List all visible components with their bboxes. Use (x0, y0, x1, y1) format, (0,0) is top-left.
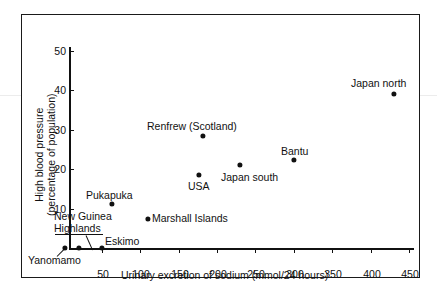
underline-new-guinea-highlands (55, 234, 103, 235)
x-tick-300 (294, 248, 295, 253)
data-point-renfrew-scotland[interactable] (200, 133, 205, 138)
x-tick-150 (179, 248, 180, 253)
data-label-renfrew-scotland: Renfrew (Scotland) (147, 121, 237, 133)
x-tick-label-50: 50 (88, 269, 118, 280)
data-label-eskimo: Eskimo (105, 236, 139, 248)
data-point-pukapuka[interactable] (109, 201, 114, 206)
data-point-eskimo[interactable] (99, 245, 104, 250)
x-tick-200 (217, 248, 218, 253)
data-point-usa[interactable] (196, 172, 201, 177)
y-tick-50 (69, 51, 74, 52)
data-label-pukapuka: Pukapuka (86, 190, 133, 202)
x-tick-250 (255, 248, 256, 253)
x-axis-title: Urinary excretion of sodium (mmol/24 hou… (121, 269, 328, 281)
data-label-bantu: Bantu (281, 146, 308, 158)
data-point-new-guinea-highlands[interactable] (76, 245, 81, 250)
data-label-marshall-islands: Marshall Islands (152, 213, 228, 225)
scatter-plot-figure: 50 40 30 20 10 50 100 150 200 250 300 35… (0, 0, 437, 297)
x-tick-450 (409, 248, 410, 253)
x-axis-line (69, 248, 414, 250)
data-label-usa: USA (188, 181, 210, 193)
data-point-marshall-islands[interactable] (145, 216, 150, 221)
data-point-japan-south[interactable] (237, 162, 242, 167)
data-point-japan-north[interactable] (391, 91, 396, 96)
data-label-japan-north: Japan north (351, 78, 406, 90)
y-tick-40 (69, 90, 74, 91)
y-tick-30 (69, 130, 74, 131)
data-label-new-guinea-line1: New Guinea (54, 210, 112, 222)
x-tick-100 (140, 248, 141, 253)
y-axis-title-line2: (percentage of population) (45, 93, 57, 216)
x-tick-400 (371, 248, 372, 253)
y-tick-20 (69, 169, 74, 170)
x-tick-350 (332, 248, 333, 253)
figure-frame: 50 40 30 20 10 50 100 150 200 250 300 35… (21, 14, 420, 278)
x-tick-label-450: 450 (395, 269, 425, 280)
y-axis-title-line1: High blood pressure (33, 108, 45, 202)
data-label-new-guinea-highlands: New Guinea Highlands (54, 211, 128, 234)
y-tick-label-50: 50 (46, 46, 66, 57)
x-tick-label-400: 400 (357, 269, 387, 280)
data-label-new-guinea-line2: Highlands (54, 222, 101, 234)
data-label-japan-south: Japan south (221, 172, 278, 184)
data-point-bantu[interactable] (291, 157, 296, 162)
data-label-yanomamo: Yanomamo (28, 255, 81, 267)
